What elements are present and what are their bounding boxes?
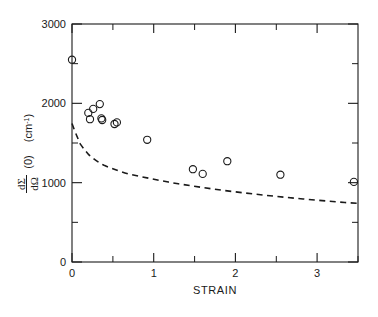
axes-frame xyxy=(72,24,358,262)
y-axis-minor-ticks xyxy=(72,64,78,223)
data-point xyxy=(90,105,97,112)
y-axis-right-minor-ticks xyxy=(352,64,358,223)
y-tick-label-3000: 3000 xyxy=(42,18,66,30)
x-tick-label-3: 3 xyxy=(314,267,320,279)
y-tick-label-2000: 2000 xyxy=(42,97,66,109)
x-tick-label-2: 2 xyxy=(232,267,238,279)
y-axis-title-units: (cm-1) xyxy=(22,114,34,142)
x-tick-label-0: 0 xyxy=(69,267,75,279)
data-point xyxy=(277,171,284,178)
data-point-series xyxy=(68,56,357,185)
y-axis-title-denominator: dΩ xyxy=(28,177,40,191)
x-axis-top-minor-ticks xyxy=(113,24,276,30)
data-point xyxy=(350,178,357,185)
fit-curve xyxy=(72,124,358,204)
data-point xyxy=(96,101,103,108)
scatter-plot-figure: 3000 2000 1000 0 0 1 2 3 STRAIN dΣ dΩ (0… xyxy=(0,0,378,317)
y-axis-title-argument: (0) xyxy=(22,155,34,168)
y-tick-label-0: 0 xyxy=(60,256,66,268)
y-tick-label-1000: 1000 xyxy=(42,177,66,189)
y-axis-title: dΣ dΩ (0) (cm-1) xyxy=(15,114,40,193)
data-point xyxy=(113,119,120,126)
data-point xyxy=(144,136,151,143)
x-tick-label-1: 1 xyxy=(151,267,157,279)
x-axis-title: STRAIN xyxy=(193,284,237,296)
data-point xyxy=(199,170,206,177)
plot-frame xyxy=(72,24,358,262)
y-axis-title-fraction: dΣ dΩ xyxy=(15,175,40,193)
y-axis-title-numerator: dΣ xyxy=(15,178,27,190)
data-point xyxy=(224,158,231,165)
y-axis-tick-labels: 3000 2000 1000 0 xyxy=(42,18,66,268)
data-point xyxy=(189,166,196,173)
x-axis-tick-labels: 0 1 2 3 xyxy=(69,267,320,279)
